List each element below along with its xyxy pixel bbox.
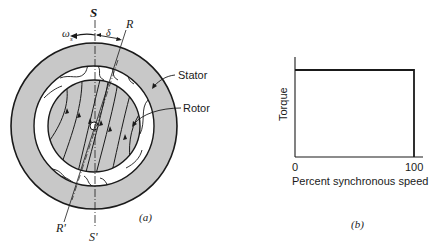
caption-b: (b) [351,218,364,231]
label-omega: ω [62,27,70,39]
x-axis-label: Percent synchronous speed [292,175,428,187]
label-delta: δ [106,27,111,38]
figure-canvas: S S' R R' ω s δ Stator Rotor (a) 0 100 P… [0,0,431,247]
label-omega-sub: s [70,35,73,43]
label-r-bottom: R' [55,221,66,235]
torque-speed-chart: 0 100 Percent synchronous speed Torque (… [277,57,428,231]
caption-a: (a) [139,211,152,224]
machine-cross-section: S S' R R' ω s δ Stator Rotor (a) [11,5,210,244]
delta-arrowhead-right-icon [116,37,122,41]
y-axis-label: Torque [277,87,289,121]
label-r-top: R [125,17,134,31]
label-stator: Stator [178,69,208,81]
label-rotor: Rotor [183,102,210,114]
delta-arrowhead-left-icon [96,33,101,37]
label-s-top: S [90,5,97,20]
x-tick-0: 0 [292,161,298,173]
omega-arrow [74,34,95,36]
torque-curve [295,70,414,157]
label-s-bottom: S' [89,230,98,244]
x-tick-100: 100 [405,161,423,173]
